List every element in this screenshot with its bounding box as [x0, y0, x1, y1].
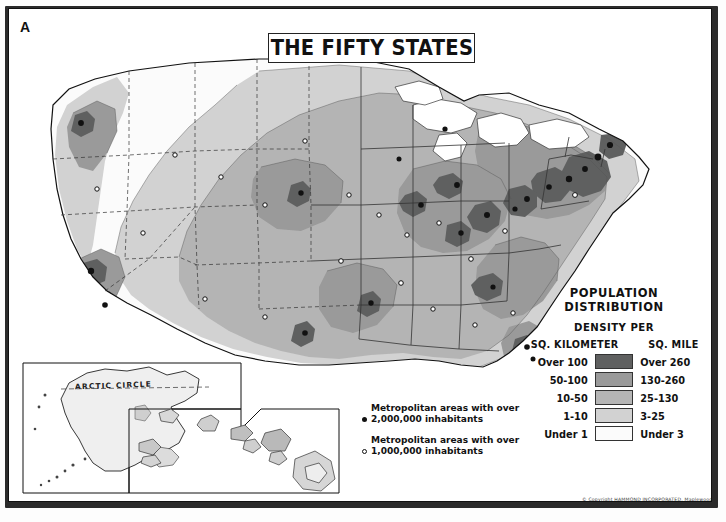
legend-row: 1-10 3-25 [524, 407, 704, 424]
metro-legend-text: Metropolitan areas with over 2,000,000 i… [371, 403, 527, 424]
legend-color-swatch [595, 372, 633, 387]
legend-row-sqmi-label: 3-25 [640, 410, 701, 422]
legend-row: 10-50 25-130 [524, 389, 704, 406]
legend-subtitle: DENSITY PER [531, 321, 697, 334]
open-dot-icon [357, 435, 371, 458]
legend-color-swatch [595, 354, 633, 369]
legend-color-swatch [595, 426, 633, 441]
legend-unit-sq-kilometer: SQ. KILOMETER [531, 338, 619, 350]
map-sheet: A [8, 8, 712, 502]
metro-legend-item: Metropolitan areas with over 2,000,000 i… [357, 403, 532, 426]
legend-row: 50-100 130-260 [524, 371, 704, 388]
metropolitan-areas-legend: Metropolitan areas with over 2,000,000 i… [357, 403, 532, 467]
metro-legend-line2: 1,000,000 inhabitants [371, 446, 519, 457]
legend-title-line2: DISTRIBUTION [531, 300, 697, 314]
metro-legend-line2: 2,000,000 inhabitants [371, 414, 519, 425]
metro-legend-item: Metropolitan areas with over 1,000,000 i… [357, 435, 532, 458]
map-page: A [0, 0, 726, 522]
page-title: THE FIFTY STATES [270, 36, 473, 60]
filled-dot-icon [357, 403, 371, 426]
legend-title-line1: POPULATION [531, 286, 697, 300]
legend-row-sqmi-label: Over 260 [640, 356, 701, 368]
legend-row-sqmi-label: 25-130 [640, 392, 701, 404]
copyright-notice: © Copyright HAMMOND INCORPORATED, Maplew… [582, 497, 712, 502]
legend-row-sqkm-label: 1-10 [526, 410, 587, 422]
legend-row-sqkm-label: Under 1 [526, 428, 587, 440]
legend-unit-headers: SQ. KILOMETER SQ. MILE [524, 338, 704, 350]
legend-unit-sq-mile: SQ. MILE [648, 338, 698, 350]
legend-row: Over 100 Over 260 [524, 353, 704, 370]
legend-color-swatch [595, 408, 633, 423]
population-density-legend: POPULATION DISTRIBUTION DENSITY PER SQ. … [524, 286, 704, 443]
legend-class-rows: Over 100 Over 260 50-100 130-260 10-50 2… [524, 353, 704, 442]
legend-row-sqkm-label: Over 100 [526, 356, 587, 368]
legend-row: Under 1 Under 3 [524, 425, 704, 442]
legend-row-sqkm-label: 10-50 [526, 392, 587, 404]
legend-color-swatch [595, 390, 633, 405]
legend-row-sqkm-label: 50-100 [526, 374, 587, 386]
legend-row-sqmi-label: Under 3 [640, 428, 701, 440]
legend-row-sqmi-label: 130-260 [640, 374, 701, 386]
metro-legend-text: Metropolitan areas with over 1,000,000 i… [371, 435, 527, 456]
map-title-box: THE FIFTY STATES [268, 33, 475, 63]
